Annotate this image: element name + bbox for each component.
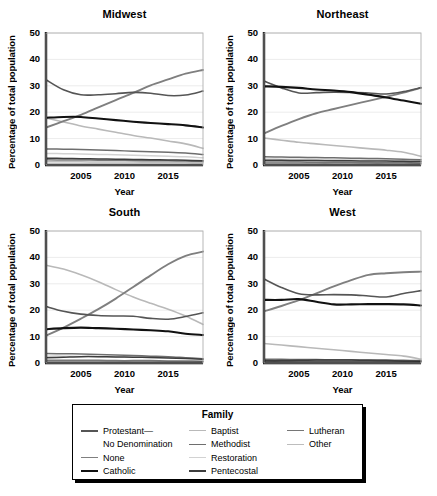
legend-item[interactable]: Methodist [189, 438, 285, 452]
legend-item-label: Protestant— [103, 426, 153, 436]
legend-column-1: Protestant—No DenominationNoneCatholic [81, 424, 189, 478]
legend-line-swatch [81, 430, 98, 432]
legend-item[interactable]: None [81, 451, 189, 465]
legend-line-swatch [287, 430, 304, 431]
panel-west: WestPercentage of total populationYear01… [218, 200, 432, 394]
legend-item-label: Other [309, 439, 332, 449]
plot-area [0, 2, 214, 198]
legend-item[interactable]: Other [287, 438, 363, 452]
legend-column-3: LutheranOther [287, 424, 363, 451]
legend-title: Family [73, 409, 362, 420]
legend-item-label: Lutheran [309, 426, 345, 436]
legend-item-label: Methodist [211, 439, 250, 449]
legend-item-label: No Denomination [103, 439, 173, 449]
legend-item-label: Restoration [211, 453, 257, 463]
plot-area [218, 200, 432, 394]
legend-line-swatch [81, 470, 98, 472]
legend-line-swatch [81, 457, 98, 458]
panel-northeast: NortheastPercentage of total populationY… [218, 2, 432, 198]
panel-midwest: MidwestPercentage of total populationYea… [0, 2, 214, 198]
series-line [264, 162, 421, 163]
legend-item-label: Pentecostal [211, 466, 258, 476]
facet-grid: MidwestPercentage of total populationYea… [0, 0, 437, 395]
legend-line-swatch [287, 444, 304, 445]
legend-item-label: None [103, 453, 125, 463]
series-line [46, 162, 203, 163]
plot-area [0, 200, 214, 394]
legend-column-2: BaptistMethodistRestorationPentecostal [189, 424, 285, 478]
legend-line-swatch [189, 430, 206, 431]
legend-item-label-continued: No Denomination [81, 438, 189, 452]
plot-area [218, 2, 432, 198]
legend-item[interactable]: Lutheran [287, 424, 363, 438]
legend-item[interactable]: Restoration [189, 451, 285, 465]
panel-south: SouthPercentage of total populationYear0… [0, 200, 214, 394]
legend-item[interactable]: Catholic [81, 465, 189, 479]
legend-item-label: Catholic [103, 466, 136, 476]
legend-item[interactable]: Pentecostal [189, 465, 285, 479]
legend-item-label: Baptist [211, 426, 239, 436]
legend-line-swatch [189, 444, 206, 445]
chart-legend: Family Protestant—No DenominationNoneCat… [72, 404, 363, 480]
legend-line-swatch [189, 457, 206, 458]
legend-line-swatch [189, 470, 206, 472]
legend-item[interactable]: Baptist [189, 424, 285, 438]
series-line [46, 360, 203, 361]
legend-item[interactable]: Protestant— [81, 424, 189, 438]
